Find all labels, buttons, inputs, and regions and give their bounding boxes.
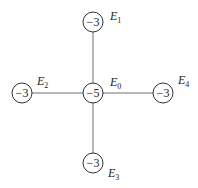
node-value: −3 [87,156,100,170]
node-label: E0 [109,75,121,91]
node-e4: −3E4 [153,73,189,103]
star-diagram: −5E0−3E1−3E2−3E3−3E4 [0,0,198,188]
node-label: E4 [177,73,189,89]
node-label: E2 [36,74,48,90]
node-e2: −3E2 [12,74,48,103]
node-label: E1 [109,9,121,25]
node-e1: −3E1 [83,9,121,32]
node-e3: −3E3 [83,153,119,182]
node-label-subscript: 4 [185,80,189,89]
node-value: −3 [157,86,170,100]
node-label-subscript: 1 [117,16,121,25]
node-value: −3 [16,86,29,100]
node-label-subscript: 0 [117,82,121,91]
node-value: −3 [87,15,100,29]
node-label: E3 [107,166,119,182]
node-label-subscript: 3 [115,173,119,182]
node-value: −5 [87,86,100,100]
node-e0: −5E0 [83,75,121,103]
node-label-subscript: 2 [44,81,48,90]
nodes: −5E0−3E1−3E2−3E3−3E4 [12,9,189,182]
